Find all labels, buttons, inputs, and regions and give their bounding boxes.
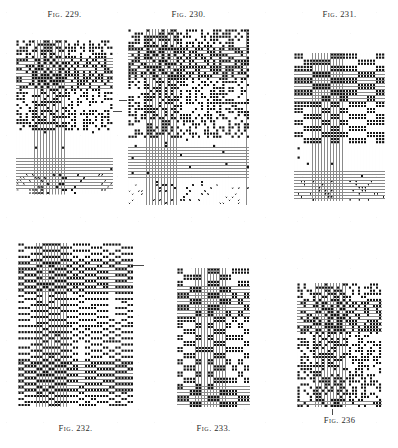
point-paper-grid-231 <box>294 53 385 201</box>
caption-fig-236: Fig. 236 <box>297 415 382 425</box>
figure-232 <box>18 243 133 407</box>
caption-fig-232: Fig. 232. <box>18 423 133 433</box>
figure-233 <box>177 268 250 406</box>
tick-right-of-229 <box>113 111 122 112</box>
point-paper-grid-236 <box>297 283 382 407</box>
point-paper-grid-230 <box>128 29 249 205</box>
caption-fig-word: Fig. <box>59 423 74 433</box>
caption-fig-number: 236 <box>342 415 356 425</box>
caption-fig-230: Fig. 230. <box>128 9 249 19</box>
figure-231 <box>294 53 385 201</box>
figure-plate: Fig. 229. Fig. 230. Fig. 231. Fig. 232. … <box>0 0 398 448</box>
caption-fig-233: Fig. 233. <box>177 423 250 433</box>
caption-fig-229: Fig. 229. <box>16 9 113 19</box>
figure-229 <box>16 40 113 195</box>
caption-fig-word: Fig. <box>197 423 212 433</box>
tick-left-of-230 <box>119 100 127 101</box>
caption-fig-231: Fig. 231. <box>294 9 385 19</box>
caption-fig-word: Fig. <box>324 415 339 425</box>
caption-fig-number: 233. <box>214 423 230 433</box>
caption-fig-number: 230. <box>189 9 205 19</box>
caption-fig-number: 229. <box>65 9 81 19</box>
point-paper-grid-232 <box>18 243 133 407</box>
tick-right-of-232 <box>133 265 144 266</box>
tick-below-236 <box>332 409 333 415</box>
caption-fig-number: 232. <box>76 423 92 433</box>
figure-230 <box>128 29 249 206</box>
caption-fig-word: Fig. <box>48 9 63 19</box>
caption-fig-word: Fig. <box>323 9 338 19</box>
figure-236 <box>297 283 382 408</box>
point-paper-grid-229 <box>16 40 113 195</box>
caption-fig-number: 231. <box>340 9 356 19</box>
caption-fig-word: Fig. <box>172 9 187 19</box>
point-paper-grid-233 <box>177 268 250 407</box>
